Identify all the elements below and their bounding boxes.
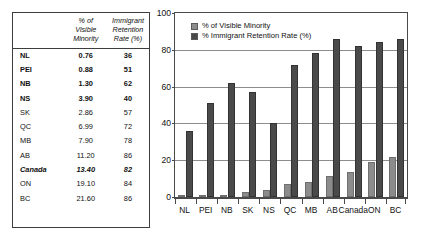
bar-visible-minority	[242, 192, 249, 197]
x-axis-tick-label: PEI	[199, 206, 213, 215]
bar-group	[347, 13, 362, 197]
table-row: BC21.6086	[13, 191, 149, 205]
x-axis-tick-label: AB	[327, 206, 338, 215]
cell-visible-minority: 6.99	[65, 120, 107, 134]
x-axis-tick-mark	[238, 199, 239, 204]
bar-visible-minority	[199, 195, 206, 197]
legend-item-visible-minority: % of Visible Minority	[191, 22, 311, 30]
bar-chart-panel: 020406080100 % of Visible Minority % Imm…	[152, 6, 414, 234]
bar-visible-minority	[220, 195, 227, 197]
header-line-3: Minority	[67, 34, 105, 43]
x-axis-tick-mark	[175, 199, 176, 204]
row-label: NB	[13, 77, 65, 91]
header-line-3: Rate (%)	[109, 34, 147, 43]
y-axis-tick-label: 100	[147, 9, 171, 18]
x-axis-tick-label: NB	[221, 206, 233, 215]
x-axis-tick-mark	[405, 199, 406, 204]
cell-retention-rate: 86	[107, 191, 149, 205]
cell-visible-minority: 0.76	[65, 48, 107, 63]
bar-retention-rate	[270, 123, 277, 197]
x-axis-tick-label: BC	[390, 206, 402, 215]
table-header-visible-minority: % of Visible Minority	[65, 13, 107, 48]
table-row: SK2.8657	[13, 106, 149, 120]
x-axis-tick-label: NS	[263, 206, 275, 215]
legend-label-retention-rate: % Immigrant Retention Rate (%)	[202, 32, 311, 40]
cell-visible-minority: 1.30	[65, 77, 107, 91]
legend-label-visible-minority: % of Visible Minority	[202, 22, 270, 30]
row-label: Canada	[13, 163, 65, 177]
cell-retention-rate: 84	[107, 177, 149, 191]
cell-retention-rate: 82	[107, 163, 149, 177]
x-axis-tick-mark	[323, 199, 324, 204]
bar-retention-rate	[186, 131, 193, 197]
cell-visible-minority: 3.90	[65, 91, 107, 105]
cell-visible-minority: 19.10	[65, 177, 107, 191]
bar-retention-rate	[312, 53, 319, 197]
cell-retention-rate: 51	[107, 63, 149, 77]
table-row: AB11.2086	[13, 149, 149, 163]
cell-visible-minority: 7.90	[65, 134, 107, 148]
x-axis-tick-mark	[217, 199, 218, 204]
bar-group	[389, 13, 404, 197]
bar-visible-minority	[305, 182, 312, 197]
bar-retention-rate	[291, 65, 298, 197]
x-axis-tick-label: NL	[179, 206, 190, 215]
table-header-corner	[13, 13, 65, 48]
bar-retention-rate	[333, 39, 340, 197]
bar-visible-minority	[326, 176, 333, 197]
cell-retention-rate: 40	[107, 91, 149, 105]
chart-legend: % of Visible Minority % Immigrant Retent…	[191, 22, 311, 42]
x-axis-tick-label: MB	[305, 206, 318, 215]
table-row: NB1.3062	[13, 77, 149, 91]
cell-retention-rate: 78	[107, 134, 149, 148]
x-axis-tick-mark	[344, 199, 345, 204]
cell-retention-rate: 86	[107, 149, 149, 163]
bar-visible-minority	[178, 195, 185, 197]
x-axis-tick-label: SK	[242, 206, 253, 215]
x-axis-tick-mark	[302, 199, 303, 204]
table-header-retention-rate: Immigrant Retention Rate (%)	[107, 13, 149, 48]
row-label: PEI	[13, 63, 65, 77]
bar-retention-rate	[228, 83, 235, 197]
data-table-panel: % of Visible Minority Immigrant Retentio…	[12, 12, 150, 228]
row-label: SK	[13, 106, 65, 120]
row-label: AB	[13, 149, 65, 163]
table-row: NS3.9040	[13, 91, 149, 105]
cell-visible-minority: 0.88	[65, 63, 107, 77]
table-row: QC6.9972	[13, 120, 149, 134]
x-axis-tick-mark	[259, 199, 260, 204]
y-axis-tick-label: 40	[147, 119, 171, 128]
bar-retention-rate	[355, 46, 362, 197]
row-label: NL	[13, 48, 65, 63]
plot-area: 020406080100 % of Visible Minority % Imm…	[174, 12, 408, 198]
table-row: Canada13.4082	[13, 163, 149, 177]
bar-retention-rate	[249, 92, 256, 197]
data-table: % of Visible Minority Immigrant Retentio…	[13, 13, 149, 206]
legend-swatch-retention-rate	[191, 33, 198, 40]
x-axis-line	[174, 198, 408, 199]
cell-visible-minority: 2.86	[65, 106, 107, 120]
x-axis-tick-label: ON	[368, 206, 381, 215]
bar-group	[326, 13, 341, 197]
legend-item-retention-rate: % Immigrant Retention Rate (%)	[191, 32, 311, 40]
y-axis-tick-label: 0	[147, 193, 171, 202]
table-header-row: % of Visible Minority Immigrant Retentio…	[13, 13, 149, 48]
table-body: NL0.7636PEI0.8851NB1.3062NS3.9040SK2.865…	[13, 48, 149, 206]
legend-swatch-visible-minority	[191, 23, 198, 30]
y-axis-tick-label: 20	[147, 156, 171, 165]
bar-visible-minority	[284, 184, 291, 197]
cell-visible-minority: 13.40	[65, 163, 107, 177]
header-line-2: Visible	[67, 25, 105, 34]
x-axis-tick-mark	[365, 199, 366, 204]
x-axis-tick-mark	[386, 199, 387, 204]
bar-retention-rate	[397, 39, 404, 197]
y-axis-tick-label: 60	[147, 83, 171, 92]
cell-visible-minority: 11.20	[65, 149, 107, 163]
row-label: ON	[13, 177, 65, 191]
x-axis-tick-mark	[196, 199, 197, 204]
cell-retention-rate: 36	[107, 48, 149, 63]
header-line-1: % of	[67, 16, 105, 25]
row-label: BC	[13, 191, 65, 205]
figure-root: % of Visible Minority Immigrant Retentio…	[0, 0, 422, 239]
header-line-2: Retention	[109, 25, 147, 34]
